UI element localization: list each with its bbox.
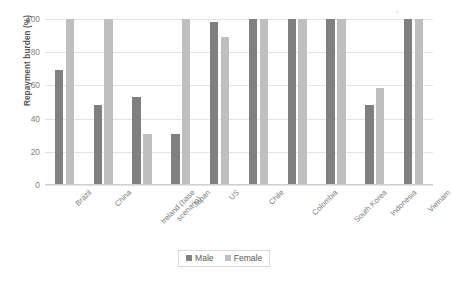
y-axis-tick-label: 60: [31, 80, 40, 90]
bar-female: [221, 37, 230, 185]
y-axis-tick-label: 40: [31, 114, 40, 124]
bar-male: [132, 97, 141, 185]
y-axis-tick-label: 100: [26, 14, 40, 24]
bar-group: [355, 19, 394, 185]
legend-swatch-icon: [186, 255, 192, 261]
bar-female: [104, 19, 113, 185]
bar-female: [143, 134, 152, 185]
y-axis-tick-label: 20: [31, 147, 40, 157]
legend-entry-male: Male: [186, 253, 214, 263]
x-axis-tick-label: Ireland (base scenario): [159, 188, 204, 233]
bar-group: [123, 19, 162, 185]
x-axis-tick-label: Indonesia: [388, 188, 418, 218]
bar-female: [182, 19, 191, 185]
bar-female: [337, 19, 346, 185]
x-axis-tick-label: US: [227, 188, 241, 202]
bar-male: [326, 19, 335, 185]
decorative-dot: [396, 11, 398, 13]
gridline: [45, 185, 433, 186]
bar-male: [249, 19, 258, 185]
bar-group: [84, 19, 123, 185]
bar-female: [376, 88, 385, 185]
bar-female: [66, 19, 75, 185]
chart-legend: MaleFemale: [178, 250, 270, 267]
bar-female: [298, 19, 307, 185]
y-axis-tick-label: 0: [35, 180, 40, 190]
x-axis-tick-label: Vietnam: [426, 188, 452, 214]
legend-entry-female: Female: [225, 253, 263, 263]
x-axis-tick-label: South Korea: [352, 188, 389, 225]
bar-male: [210, 22, 219, 185]
x-axis-tick-label: China: [113, 188, 134, 209]
x-axis-tick-label: Chile: [267, 188, 286, 207]
bar-group: [278, 19, 317, 185]
x-axis-tick-label: Brazil: [74, 188, 94, 208]
legend-label: Female: [234, 253, 263, 263]
bar-group: [239, 19, 278, 185]
legend-swatch-icon: [225, 255, 231, 261]
bar-male: [365, 105, 374, 185]
x-axis-tick-label: Colombia: [311, 188, 340, 217]
plot-area: 020406080100: [45, 19, 433, 185]
x-axis-tick-labels: BrazilChinaIreland (base scenario)JapanU…: [45, 188, 433, 250]
bar-female: [415, 19, 424, 185]
bar-male: [404, 19, 413, 185]
bar-group: [317, 19, 356, 185]
bar-male: [55, 70, 64, 185]
bar-group: [161, 19, 200, 185]
bar-group: [45, 19, 84, 185]
bar-male: [171, 134, 180, 185]
bar-female: [260, 19, 269, 185]
bar-male: [94, 105, 103, 186]
legend-label: Male: [195, 253, 214, 263]
bar-group: [394, 19, 433, 185]
bar-male: [288, 19, 297, 185]
bar-group: [200, 19, 239, 185]
x-axis-baseline: [45, 184, 433, 185]
y-axis-tick-label: 80: [31, 47, 40, 57]
